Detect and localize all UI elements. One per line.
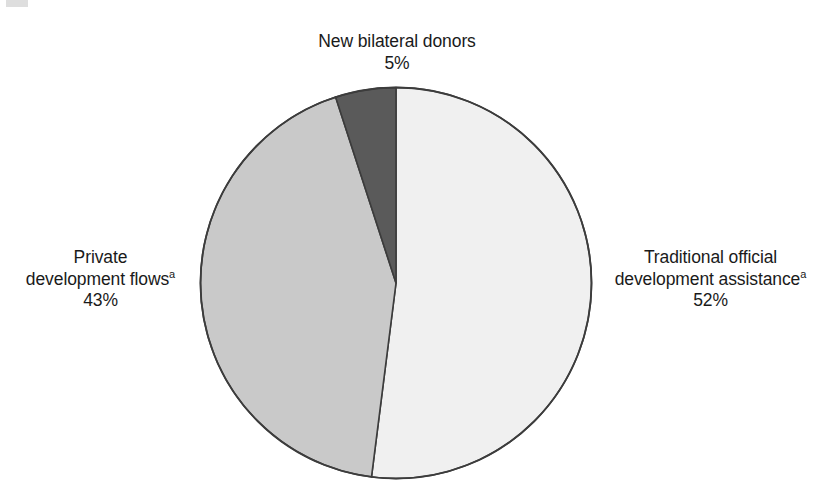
footnote-marker-a: a bbox=[169, 268, 175, 280]
slice-label-line1: Traditional official bbox=[592, 247, 829, 269]
slice-label-line2-text: development assistance bbox=[615, 269, 801, 289]
footnote-marker-a: a bbox=[800, 268, 806, 280]
slice-label-line2: development assistancea bbox=[592, 269, 829, 291]
scan-artifact-mark bbox=[6, 0, 28, 7]
slice-label-traditional-official-development-assistance: Traditional official development assista… bbox=[592, 247, 829, 312]
slice-label-line1: New bilateral donors bbox=[239, 31, 555, 53]
slice-label-line1: Private bbox=[0, 247, 201, 269]
pie-chart-figure: New bilateral donors 5% Traditional offi… bbox=[0, 0, 829, 503]
slice-percent-value: 52% bbox=[592, 290, 829, 312]
slice-label-new-bilateral-donors: New bilateral donors 5% bbox=[239, 31, 555, 74]
pie-svg bbox=[199, 86, 593, 480]
slice-percent-value: 43% bbox=[0, 290, 201, 312]
pie-slice-traditional-official-development-assistance[interactable] bbox=[372, 88, 592, 479]
slice-percent-value: 5% bbox=[239, 53, 555, 75]
slice-label-line2: development flowsa bbox=[0, 269, 201, 291]
slice-label-private-development-flows: Private development flowsa 43% bbox=[0, 247, 201, 312]
pie-slice-group bbox=[201, 88, 592, 479]
pie-chart-graphic bbox=[199, 86, 593, 480]
slice-label-line2-text: development flows bbox=[26, 269, 169, 289]
